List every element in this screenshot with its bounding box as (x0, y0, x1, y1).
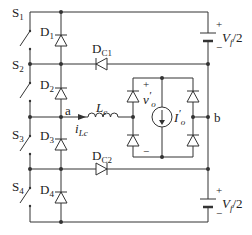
diode-d2 (55, 88, 67, 99)
battery-top (200, 33, 216, 41)
diode-dc1 (96, 58, 107, 70)
source-top-minus: − (216, 42, 222, 53)
diode-d2-label: D2 (40, 78, 54, 94)
bottom-rail-wire (30, 207, 208, 222)
load-voltage-label: v′o (143, 90, 156, 109)
diode-d4 (55, 192, 67, 203)
source-top-label: Vf/2 (222, 31, 243, 47)
diode-d3-label: D3 (40, 129, 54, 145)
switch-s1-label: S1 (12, 6, 24, 22)
current-source-arrowhead-icon (159, 120, 165, 125)
bridge-diode-left-top (127, 91, 139, 102)
switch-s2-label: S2 (12, 58, 24, 74)
bridge-diode-left-bottom (127, 135, 139, 146)
switch-s3-label: S3 (12, 128, 24, 144)
current-arrow-icon (78, 114, 86, 120)
diode-d1-label: D1 (40, 25, 54, 41)
battery-bottom (200, 199, 216, 207)
inductor-current-label: iLc (75, 122, 88, 138)
diode-dc1-label: DC1 (92, 42, 112, 58)
current-source-label: I′o (174, 108, 185, 127)
source-bottom-label: Vf/2 (222, 197, 243, 213)
inductor-label: Lc (96, 101, 107, 117)
diode-dc2-label: DC2 (92, 149, 112, 165)
diode-d4-label: D4 (40, 183, 54, 199)
bridge-diode-right-bottom (187, 135, 199, 146)
node-b-label: b (214, 111, 221, 124)
load-voltage-minus: − (143, 146, 149, 157)
node-a-label: a (65, 104, 71, 117)
source-top-plus: + (216, 19, 222, 30)
diode-d3 (55, 139, 67, 150)
source-bottom-minus: − (216, 208, 222, 219)
diode-d1 (55, 35, 67, 46)
switch-s4-label: S4 (12, 180, 24, 196)
source-bottom-plus: + (216, 185, 222, 196)
bridge-diode-right-top (187, 91, 199, 102)
top-rail-wire (30, 12, 208, 33)
